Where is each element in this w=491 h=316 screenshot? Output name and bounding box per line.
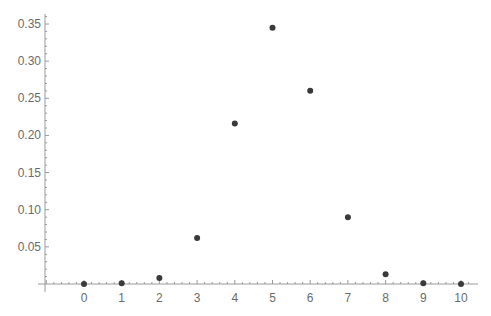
data-point <box>270 25 276 31</box>
axes: 0.050.100.150.200.250.300.35012345678910 <box>18 14 478 305</box>
x-tick-label: 0 <box>81 291 88 305</box>
data-point <box>383 271 389 277</box>
y-tick-label: 0.35 <box>18 17 42 31</box>
x-tick-label: 9 <box>420 291 427 305</box>
data-point <box>458 281 464 287</box>
x-tick-label: 3 <box>194 291 201 305</box>
x-tick-label: 8 <box>382 291 389 305</box>
y-tick-label: 0.15 <box>18 166 42 180</box>
y-tick-label: 0.10 <box>18 203 42 217</box>
data-point <box>420 280 426 286</box>
data-point <box>156 275 162 281</box>
x-tick-label: 1 <box>118 291 125 305</box>
y-tick-label: 0.25 <box>18 91 42 105</box>
y-tick-label: 0.30 <box>18 54 42 68</box>
scatter-chart: 0.050.100.150.200.250.300.35012345678910 <box>0 0 491 316</box>
x-tick-label: 7 <box>345 291 352 305</box>
x-tick-label: 5 <box>269 291 276 305</box>
x-tick-label: 2 <box>156 291 163 305</box>
data-points <box>81 25 464 287</box>
data-point <box>81 281 87 287</box>
x-tick-label: 4 <box>231 291 238 305</box>
data-point <box>194 235 200 241</box>
data-point <box>232 121 238 127</box>
data-point <box>307 88 313 94</box>
x-tick-label: 10 <box>454 291 468 305</box>
y-tick-label: 0.20 <box>18 128 42 142</box>
y-tick-label: 0.05 <box>18 240 42 254</box>
data-point <box>119 280 125 286</box>
data-point <box>345 214 351 220</box>
x-tick-label: 6 <box>307 291 314 305</box>
